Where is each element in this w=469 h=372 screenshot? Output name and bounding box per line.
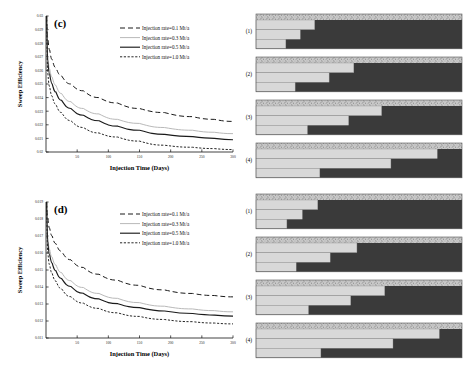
reservoir-sections-d: (1)(2)(3)(4) bbox=[240, 188, 469, 366]
legend-label-0: Injection rate=0.1 Mt/a bbox=[142, 211, 190, 217]
data-curve-2 bbox=[47, 202, 233, 316]
y-axis-title: Sweep Efficiency bbox=[16, 60, 23, 107]
data-curve-2 bbox=[47, 16, 233, 140]
swept-layer-0 bbox=[256, 200, 318, 210]
swept-layer-1 bbox=[256, 339, 393, 349]
swept-layer-2 bbox=[256, 39, 286, 49]
swept-layer-1 bbox=[256, 73, 329, 83]
section-panels-d: (1)(2)(3)(4) bbox=[240, 188, 469, 366]
legend-label-3: Injection rate=1.0 Mt/a bbox=[142, 54, 190, 60]
y-tick-label: 0.029 bbox=[35, 28, 43, 32]
y-tick-label: 0.02 bbox=[37, 150, 43, 154]
y-tick-label: 0.013 bbox=[35, 302, 43, 306]
legend-label-2: Injection rate=0.5 Mt/a bbox=[142, 230, 190, 236]
y-tick-label: 0.026 bbox=[35, 69, 43, 73]
swept-layer-2 bbox=[256, 82, 295, 92]
y-tick-label: 0.027 bbox=[35, 55, 43, 59]
y-tick-label: 0.03 bbox=[37, 14, 43, 18]
x-tick-label: 300 bbox=[230, 155, 236, 159]
caprock-layer bbox=[256, 280, 462, 286]
reservoir-panel: (4) bbox=[246, 323, 462, 358]
legend-label-1: Injection rate=0.3 Mt/a bbox=[142, 221, 190, 227]
swept-layer-1 bbox=[256, 159, 391, 169]
swept-layer-2 bbox=[256, 262, 296, 272]
figure-root: 0.020.0210.0220.0230.0240.0250.0260.0270… bbox=[0, 0, 469, 372]
reservoir-sections-c: (1)(2)(3)(4) bbox=[240, 8, 469, 186]
panel-index-label: (3) bbox=[246, 294, 252, 301]
swept-layer-0 bbox=[256, 106, 382, 116]
caprock-layer bbox=[256, 237, 462, 243]
panel-index-label: (3) bbox=[246, 114, 252, 121]
y-tick-label: 0.022 bbox=[35, 123, 43, 127]
sweep-efficiency-chart-d: 0.0110.0120.0130.0140.0150.0160.0170.018… bbox=[0, 186, 240, 372]
swept-layer-2 bbox=[256, 305, 309, 315]
legend-label-2: Injection rate=0.5 Mt/a bbox=[142, 44, 190, 50]
caprock-layer bbox=[256, 100, 462, 106]
swept-layer-2 bbox=[256, 348, 321, 358]
swept-layer-0 bbox=[256, 286, 385, 296]
y-tick-label: 0.018 bbox=[35, 217, 43, 221]
panel-index-label: (2) bbox=[246, 251, 252, 258]
chart-panel-c: 0.020.0210.0220.0230.0240.0250.0260.0270… bbox=[0, 0, 240, 186]
panel-index-label: (4) bbox=[246, 337, 252, 344]
legend-label-0: Injection rate=0.1 Mt/a bbox=[142, 25, 190, 31]
reservoir-panel: (2) bbox=[246, 57, 462, 92]
swept-layer-0 bbox=[256, 63, 354, 73]
swept-layer-1 bbox=[256, 253, 330, 263]
caprock-layer bbox=[256, 323, 462, 329]
x-tick-label: 100 bbox=[106, 155, 112, 159]
caprock-layer bbox=[256, 194, 462, 200]
panel-label: (c) bbox=[54, 17, 67, 30]
x-tick-label: 50 bbox=[75, 341, 79, 345]
data-curve-3 bbox=[47, 202, 233, 324]
y-tick-label: 0.015 bbox=[35, 268, 43, 272]
panel-index-label: (4) bbox=[246, 157, 252, 164]
caprock-layer bbox=[256, 57, 462, 63]
x-tick-label: 150 bbox=[137, 341, 143, 345]
data-curve-3 bbox=[47, 16, 233, 150]
y-tick-label: 0.023 bbox=[35, 110, 43, 114]
x-tick-label: 200 bbox=[168, 341, 174, 345]
reservoir-panel: (4) bbox=[246, 143, 462, 178]
data-curve-1 bbox=[47, 16, 233, 134]
swept-layer-1 bbox=[256, 30, 300, 40]
panel-index-label: (1) bbox=[246, 28, 252, 35]
x-tick-label: 100 bbox=[106, 341, 112, 345]
reservoir-panel: (2) bbox=[246, 237, 462, 272]
caprock-layer bbox=[256, 143, 462, 149]
x-tick-label: 300 bbox=[230, 341, 236, 345]
section-panels-c: (1)(2)(3)(4) bbox=[240, 8, 469, 186]
y-tick-label: 0.016 bbox=[35, 251, 43, 255]
legend-label-1: Injection rate=0.3 Mt/a bbox=[142, 35, 190, 41]
reservoir-panel: (1) bbox=[246, 14, 462, 49]
reservoir-panel: (1) bbox=[246, 194, 462, 229]
x-tick-label: 150 bbox=[137, 155, 143, 159]
panel-label: (d) bbox=[54, 203, 68, 216]
y-tick-label: 0.014 bbox=[35, 285, 43, 289]
swept-layer-2 bbox=[256, 125, 308, 135]
swept-layer-2 bbox=[256, 168, 320, 178]
swept-layer-0 bbox=[256, 20, 315, 30]
swept-layer-1 bbox=[256, 296, 351, 306]
chart-panel-d: 0.0110.0120.0130.0140.0150.0160.0170.018… bbox=[0, 186, 240, 372]
chart-axes bbox=[46, 202, 233, 338]
y-tick-label: 0.021 bbox=[35, 137, 43, 141]
y-axis-title: Sweep Efficiency bbox=[16, 246, 23, 293]
swept-layer-2 bbox=[256, 219, 287, 229]
sweep-efficiency-chart-c: 0.020.0210.0220.0230.0240.0250.0260.0270… bbox=[0, 0, 240, 186]
swept-layer-0 bbox=[256, 243, 357, 253]
x-tick-label: 200 bbox=[168, 155, 174, 159]
panel-index-label: (1) bbox=[246, 208, 252, 215]
x-tick-label: 250 bbox=[199, 155, 205, 159]
y-tick-label: 0.025 bbox=[35, 82, 43, 86]
x-tick-label: 50 bbox=[75, 155, 79, 159]
y-tick-label: 0.028 bbox=[35, 42, 43, 46]
y-tick-label: 0.019 bbox=[35, 200, 43, 204]
swept-layer-0 bbox=[256, 329, 439, 339]
y-tick-label: 0.017 bbox=[35, 234, 43, 238]
panel-index-label: (2) bbox=[246, 71, 252, 78]
y-tick-label: 0.024 bbox=[35, 96, 43, 100]
y-tick-label: 0.012 bbox=[35, 319, 43, 323]
caprock-layer bbox=[256, 14, 462, 20]
reservoir-panel: (3) bbox=[246, 100, 462, 135]
